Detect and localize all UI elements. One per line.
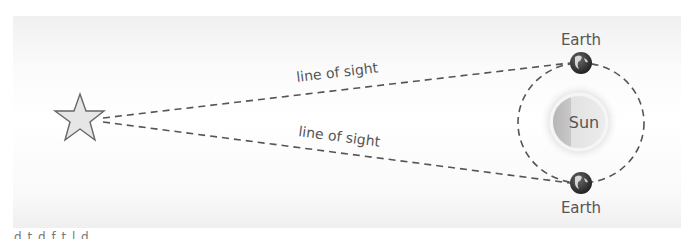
parallax-diagram: Sun Earth Earth line of sight line of si…: [0, 0, 688, 239]
earth-top: Earth: [561, 31, 601, 74]
earth-top-label: Earth: [561, 31, 601, 49]
line-of-sight-lower-label: line of sight: [298, 123, 382, 150]
star-icon: [55, 94, 104, 140]
sun: Sun: [539, 82, 619, 162]
earth-bottom: Earth: [561, 172, 601, 217]
sun-label: Sun: [569, 113, 599, 132]
line-of-sight-upper-label: line of sight: [295, 59, 379, 85]
earth-bottom-label: Earth: [561, 199, 601, 217]
earth-globe-icon: [570, 52, 592, 74]
earth-globe-icon: [570, 172, 592, 194]
figure-caption-cropped: d t d f t l d: [14, 230, 90, 239]
